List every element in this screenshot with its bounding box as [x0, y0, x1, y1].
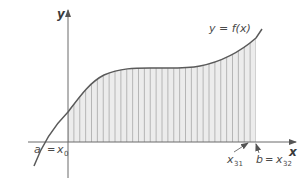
- shaded-region: [68, 20, 256, 142]
- svg-text:x: x: [226, 153, 234, 166]
- svg-text:=: =: [265, 154, 273, 165]
- label-x31: x 31: [226, 143, 248, 168]
- riemann-figure: y x y = f(x) a = x 0 x 31 b = x 32: [0, 0, 301, 180]
- label-b-x32: b = x 32: [256, 144, 292, 168]
- svg-text:x: x: [56, 143, 64, 156]
- label-a-x0: a = x 0: [34, 143, 68, 158]
- svg-text:0: 0: [64, 150, 68, 158]
- svg-text:31: 31: [234, 160, 243, 168]
- y-axis-label: y: [57, 7, 66, 21]
- x-axis-label: x: [288, 145, 298, 159]
- svg-text:x: x: [275, 153, 283, 166]
- svg-text:32: 32: [283, 160, 292, 168]
- curve-label: y = f(x): [208, 22, 251, 35]
- svg-text:a: a: [34, 143, 41, 156]
- svg-text:=: =: [47, 144, 55, 155]
- svg-text:b: b: [256, 153, 263, 166]
